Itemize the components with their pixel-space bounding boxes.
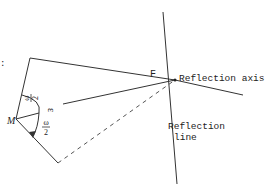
bisector-line bbox=[16, 113, 39, 119]
label-half-angle-lower-num: ω bbox=[43, 118, 48, 127]
label-reflection-axis: Reflection axis bbox=[179, 73, 265, 84]
left-edge bbox=[16, 58, 30, 119]
label-epsilon: ε bbox=[46, 108, 57, 112]
label-m: M bbox=[6, 115, 16, 126]
arrow-head-icon bbox=[29, 131, 36, 138]
label-reflection-line-1: Reflection bbox=[168, 121, 225, 132]
label-reflection-line-2: line bbox=[174, 132, 197, 143]
reflection-diagram: F M Reflection axis Reflection line : ε … bbox=[0, 0, 272, 196]
label-half-angle-upper-den: 2 bbox=[31, 96, 40, 100]
reflection-line bbox=[163, 12, 177, 184]
label-f: F bbox=[150, 69, 156, 80]
point-f-dot bbox=[174, 79, 177, 82]
label-half-angle-lower-den: 2 bbox=[44, 128, 48, 137]
left-edge-mark: : bbox=[0, 59, 5, 69]
label-half-angle-upper-num: ω bbox=[22, 95, 31, 100]
